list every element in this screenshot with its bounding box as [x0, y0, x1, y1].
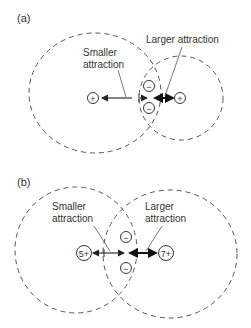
- panel-a: (a) + + − − Smaller attraction Larger at…: [17, 12, 223, 153]
- svg-text:−: −: [146, 82, 151, 92]
- larger-attraction-label: Larger: [145, 201, 175, 212]
- svg-text:7+: 7+: [161, 249, 171, 259]
- larger-leader-line: [165, 47, 182, 96]
- diagram-canvas: (a) + + − − Smaller attraction Larger at…: [0, 0, 251, 328]
- svg-text:−: −: [146, 104, 151, 114]
- smaller-leader-line: [94, 226, 110, 251]
- smaller-attraction-label: Smaller: [52, 201, 87, 212]
- svg-text:+: +: [177, 94, 182, 104]
- larger-leader-line: [146, 226, 162, 251]
- panel-b: (b) 5+ 7+ − − Smaller attraction Larger …: [15, 176, 237, 318]
- svg-text:attraction: attraction: [83, 59, 124, 70]
- panel-label-a: (a): [17, 12, 30, 24]
- smaller-leader-line: [118, 70, 126, 97]
- svg-text:+: +: [90, 94, 95, 104]
- panel-label-b: (b): [17, 176, 30, 188]
- svg-text:5+: 5+: [79, 249, 89, 259]
- larger-attraction-label: Larger attraction: [146, 34, 219, 45]
- svg-text:attraction: attraction: [145, 213, 186, 224]
- svg-text:−: −: [123, 264, 128, 274]
- svg-text:−: −: [123, 233, 128, 243]
- smaller-attraction-label: Smaller: [83, 47, 118, 58]
- svg-text:attraction: attraction: [52, 213, 93, 224]
